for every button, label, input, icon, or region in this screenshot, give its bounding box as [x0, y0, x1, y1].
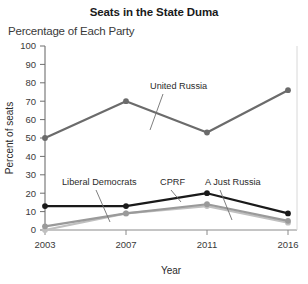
y-tick-label: 90	[25, 59, 36, 70]
y-axis-title: Percent of seats	[4, 102, 15, 174]
chart-title: Seats in the State Duma	[0, 6, 308, 18]
x-axis-ticks: 2003200720112016	[34, 230, 298, 250]
data-point	[204, 190, 210, 196]
leader-line	[171, 190, 181, 202]
data-point	[42, 203, 48, 209]
data-point	[123, 211, 129, 217]
x-tick-label: 2016	[277, 239, 298, 250]
data-point	[285, 218, 291, 224]
data-point	[42, 135, 48, 141]
series-label-a-just-russia: A Just Russia	[205, 177, 262, 187]
y-tick-label: 80	[25, 77, 36, 88]
chart-subtitle: Percentage of Each Party	[8, 25, 134, 37]
data-point	[285, 211, 291, 217]
x-tick-label: 2007	[115, 239, 136, 250]
data-series-group	[42, 87, 291, 233]
data-point	[204, 130, 210, 136]
data-point	[123, 98, 129, 104]
x-tick-label: 2003	[34, 239, 55, 250]
x-tick-label: 2011	[197, 239, 217, 250]
line-chart-svg: 0102030405060708090100 2003200720112016 …	[0, 42, 308, 282]
y-tick-label: 20	[25, 188, 36, 199]
series-line	[45, 90, 288, 138]
y-axis-ticks: 0102030405060708090100	[20, 42, 45, 235]
series-a-just-russia	[42, 203, 291, 233]
data-point	[42, 223, 48, 229]
x-axis-title: Year	[161, 265, 182, 276]
series-label-liberal-democrats: Liberal Democrats	[62, 177, 137, 187]
chart-container: Seats in the State Duma Percentage of Ea…	[0, 0, 308, 284]
data-point	[123, 203, 129, 209]
series-label-cprf: CPRF	[160, 177, 185, 187]
y-tick-label: 100	[20, 42, 36, 51]
y-tick-label: 10	[25, 206, 36, 217]
data-point	[204, 201, 210, 207]
leader-line	[220, 190, 232, 220]
y-tick-label: 70	[25, 96, 36, 107]
series-united-russia	[42, 87, 291, 141]
y-tick-label: 30	[25, 169, 36, 180]
annotation-leader-lines	[96, 94, 232, 222]
y-tick-label: 50	[25, 132, 36, 143]
data-point	[285, 87, 291, 93]
y-tick-label: 60	[25, 114, 36, 125]
series-cprf	[42, 190, 291, 216]
y-tick-label: 40	[25, 151, 36, 162]
y-tick-label: 0	[31, 224, 36, 235]
series-label-united-russia: United Russia	[150, 81, 208, 91]
